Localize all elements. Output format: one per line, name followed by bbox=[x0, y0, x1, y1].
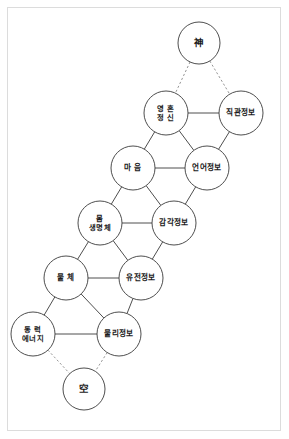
edge-yeonghon-maeum bbox=[144, 132, 154, 149]
edge-sin-jikgwan bbox=[210, 61, 230, 94]
edge-mulche-dongryeok bbox=[44, 297, 55, 315]
node-label-yeonghon: 영 혼 bbox=[157, 104, 174, 113]
node-yeonghon[interactable]: 영 혼정 신 bbox=[144, 91, 188, 135]
edge-jikgwan-eoneo bbox=[219, 132, 230, 150]
edge-sin-yeonghon bbox=[175, 62, 190, 93]
node-label-eoneo: 언어정보 bbox=[192, 162, 221, 172]
node-gong[interactable]: 空 bbox=[63, 368, 105, 410]
diagram-canvas: 神영 혼정 신직관정보마 음언어정보몸생명체감각정보물 체유전정보동 력에너지물… bbox=[0, 0, 289, 439]
node-label-mulche: 물 체 bbox=[57, 272, 75, 282]
node-label-yujeon: 유전정보 bbox=[126, 272, 155, 282]
node-jikgwan[interactable]: 직관정보 bbox=[219, 91, 263, 135]
edge-mulli-gong bbox=[95, 353, 107, 372]
edge-maeum-mom bbox=[111, 187, 121, 204]
node-label-gamgak: 감각정보 bbox=[159, 217, 188, 227]
edge-eoneo-gamgak bbox=[185, 187, 195, 204]
node-label-jikgwan: 직관정보 bbox=[226, 107, 255, 117]
node-eoneo[interactable]: 언어정보 bbox=[185, 146, 229, 190]
node-gamgak[interactable]: 감각정보 bbox=[152, 201, 196, 245]
node-label-maeum: 마 음 bbox=[124, 162, 142, 172]
edge-mom-yujeon bbox=[113, 241, 128, 261]
node-label-mom: 몸 bbox=[96, 214, 103, 223]
node-label-yeonghon: 정 신 bbox=[157, 113, 174, 122]
edge-maeum-gamgak bbox=[146, 186, 161, 206]
node-label-dongryeok: 에너지 bbox=[22, 334, 44, 343]
node-mulche[interactable]: 물 체 bbox=[44, 256, 88, 300]
node-label-sin: 神 bbox=[194, 37, 204, 48]
node-label-gong: 空 bbox=[79, 383, 89, 394]
node-sin[interactable]: 神 bbox=[178, 22, 220, 64]
node-label-mulli: 물리정보 bbox=[104, 328, 133, 338]
edge-mulche-mulli bbox=[81, 294, 104, 318]
node-dongryeok[interactable]: 동 력에너지 bbox=[11, 312, 55, 356]
node-label-dongryeok: 동 력 bbox=[24, 325, 41, 334]
edge-dongryeok-gong bbox=[48, 350, 70, 373]
node-yujeon[interactable]: 유전정보 bbox=[119, 256, 163, 300]
node-label-mom: 생명체 bbox=[89, 223, 111, 232]
node-maeum[interactable]: 마 음 bbox=[111, 146, 155, 190]
edge-yeonghon-eoneo bbox=[179, 131, 194, 151]
edge-yujeon-mulli bbox=[127, 298, 133, 313]
node-mulli[interactable]: 물리정보 bbox=[97, 312, 141, 356]
node-link-diagram: 神영 혼정 신직관정보마 음언어정보몸생명체감각정보물 체유전정보동 력에너지물… bbox=[0, 0, 289, 439]
edge-gamgak-yujeon bbox=[152, 242, 162, 259]
edge-mom-mulche bbox=[78, 242, 89, 260]
node-mom[interactable]: 몸생명체 bbox=[78, 201, 122, 245]
node-layer: 神영 혼정 신직관정보마 음언어정보몸생명체감각정보물 체유전정보동 력에너지물… bbox=[11, 22, 263, 410]
